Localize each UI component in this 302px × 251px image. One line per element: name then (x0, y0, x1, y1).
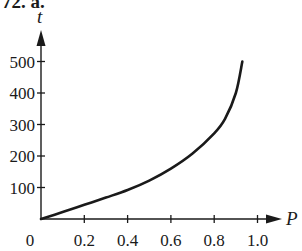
x-tick-label: 1.0 (247, 231, 268, 250)
x-tick-label: 0.4 (117, 231, 139, 250)
x-ticks: 00.20.40.60.81.0 (26, 215, 268, 250)
x-tick-label: 0.2 (74, 231, 95, 250)
y-tick-label: 200 (10, 147, 36, 166)
y-tick-label: 500 (10, 53, 36, 72)
x-tick-label: 0.8 (204, 231, 225, 250)
y-tick-label: 100 (10, 179, 36, 198)
axes: t P (37, 6, 299, 229)
y-axis-arrow-icon (37, 30, 46, 46)
x-tick-label: 0.6 (160, 231, 181, 250)
x-axis-arrow-icon (266, 215, 282, 224)
x-axis-label: P (285, 208, 298, 229)
x-tick-label: 0 (26, 231, 35, 250)
chart: t P 100200300400500 00.20.40.60.81.0 (0, 0, 302, 251)
y-tick-label: 300 (10, 116, 36, 135)
y-tick-label: 400 (10, 84, 36, 103)
y-axis-label: t (37, 6, 43, 27)
data-curve (41, 62, 242, 220)
y-ticks: 100200300400500 (10, 53, 46, 198)
